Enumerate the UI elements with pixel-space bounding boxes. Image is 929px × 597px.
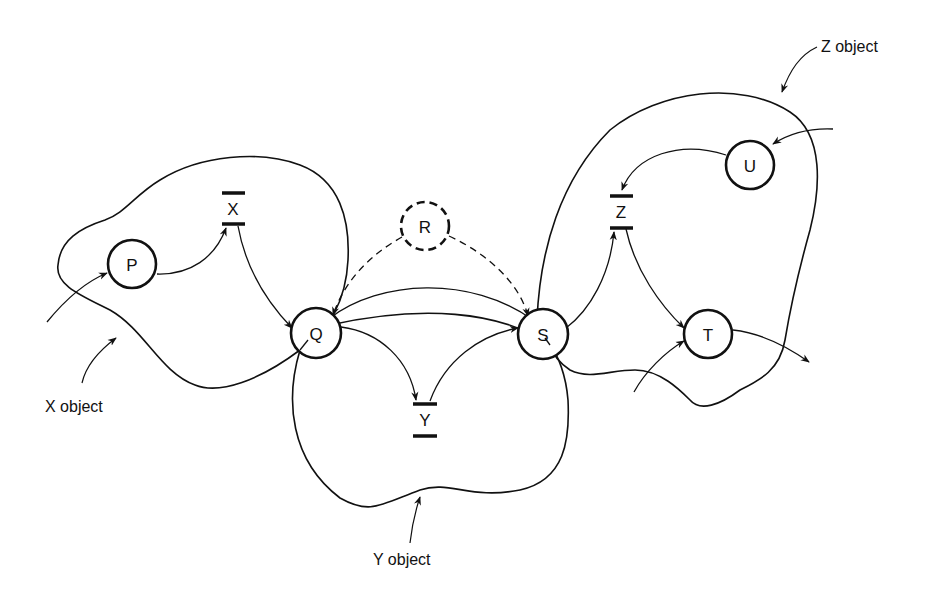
place-q-label: Q	[309, 325, 322, 344]
place-p-label: P	[126, 256, 137, 275]
diagram-canvas: P Q R S T U X Y Z X object Y object Z ob…	[0, 0, 929, 597]
arc-q-y	[341, 327, 416, 400]
arc-x-q	[238, 226, 292, 328]
transition-y-label: Y	[419, 411, 430, 430]
arc-s-q	[330, 288, 533, 320]
place-s-label: S	[537, 326, 548, 345]
x-object-label: X object	[45, 398, 103, 415]
arc-in-t	[634, 341, 684, 392]
y-object-label: Y object	[373, 551, 431, 568]
arc-s-z	[566, 232, 614, 328]
place-t-label: T	[703, 326, 713, 345]
arc-u-z	[622, 149, 726, 190]
arc-r-q	[333, 237, 402, 315]
z-object-label: Z object	[821, 38, 878, 55]
transition-x-label: X	[227, 200, 238, 219]
arc-in-p	[47, 273, 107, 322]
arc-in-u	[773, 129, 833, 144]
place-r-label: R	[419, 218, 431, 237]
arc-y-s	[430, 328, 518, 401]
z-object-boundary	[537, 93, 817, 406]
arc-p-x	[157, 228, 226, 274]
place-u-label: U	[744, 157, 756, 176]
arc-z-t	[626, 229, 684, 328]
arc-r-s	[449, 236, 528, 316]
transition-z-label: Z	[616, 203, 626, 222]
z-object-pointer	[782, 47, 817, 92]
arc-t-out	[733, 330, 809, 362]
y-object-pointer	[410, 497, 420, 543]
x-object-pointer	[82, 338, 116, 383]
